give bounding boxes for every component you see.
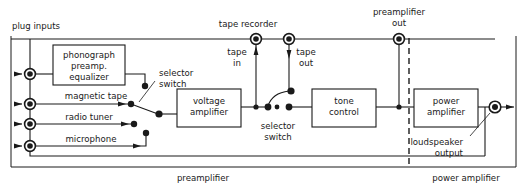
label-tape-out-line2: out [299,58,314,68]
block-power-amplifier-line2: amplifier [427,107,466,117]
terminal-phono-input[interactable] [25,69,36,80]
block-phonograph-preamp-equalizer[interactable]: phonograph preamp. equalizer [53,45,125,85]
terminal-magnetic-tape-input[interactable] [25,99,36,110]
input-selector-switch[interactable] [128,83,177,136]
terminal-microphone-input[interactable] [25,141,36,152]
label-plug-inputs: plug inputs [12,21,61,31]
label-tape-in-line2: in [233,58,241,68]
block-voltage-amplifier[interactable]: voltage amplifier [177,89,241,127]
terminal-radio-tuner-input[interactable] [25,119,36,130]
label-tape-in-line1: tape [227,47,246,57]
block-diagram-svg: phonograph preamp. equalizer voltage amp… [0,0,526,193]
label-tape-out-line1: tape [296,47,315,57]
terminal-tape-out[interactable] [284,34,295,45]
block-power-amplifier-line1: power [433,96,460,106]
label-tape-selector-line2: switch [264,132,291,142]
terminal-loudspeaker-output[interactable] [489,101,501,113]
block-phono-line1: phonograph [63,50,115,60]
block-power-amplifier[interactable]: power amplifier [414,89,478,127]
block-tone-control-line2: control [329,107,359,117]
block-phono-line3: equalizer [69,72,109,82]
label-tape-selector-line1: selector [261,121,296,131]
label-preamplifier-out-line2: out [392,18,407,28]
schematic-diagram: phonograph preamp. equalizer voltage amp… [0,0,526,193]
label-magnetic-tape: magnetic tape [65,91,127,101]
label-input-selector-line2: switch [159,79,186,89]
terminal-preamplifier-out[interactable] [394,34,405,45]
block-tone-control[interactable]: tone control [312,89,376,127]
terminal-tape-in[interactable] [251,34,262,45]
block-voltage-amplifier-line2: amplifier [190,107,229,117]
label-loudspeaker-output-line2: output [435,148,464,158]
label-preamplifier-out-line1: preamplifier [373,7,426,17]
label-radio-tuner: radio tuner [65,112,113,122]
block-phono-line2: preamp. [71,61,107,71]
label-tape-recorder: tape recorder [219,19,278,29]
block-tone-control-line1: tone [334,96,353,106]
tape-selector-switch[interactable] [265,87,312,110]
label-input-selector-line1: selector [159,68,194,78]
label-loudspeaker-output-line1: loudspeaker [410,137,463,147]
label-microphone: microphone [66,134,117,144]
label-section-preamplifier: preamplifier [177,173,230,183]
block-voltage-amplifier-line1: voltage [193,96,225,106]
label-section-power-amplifier: power amplifier [432,173,500,183]
